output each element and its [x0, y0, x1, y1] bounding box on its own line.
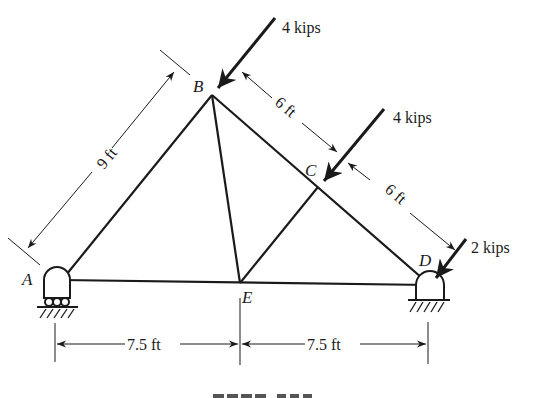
member-ce: [240, 187, 318, 283]
member-ad: [62, 280, 430, 285]
node-label-d: D: [418, 251, 432, 270]
dimension-label-6ft-cd: 6 ft: [382, 180, 410, 207]
dimension-label-6ft-bc: 6 ft: [272, 93, 300, 120]
node-label-e: E: [241, 288, 253, 307]
truss-diagram: 4 kips 4 kips 2 kips A B C D E 9 ft 6 ft…: [0, 0, 536, 398]
load-label-b: 4 kips: [282, 19, 321, 37]
member-be: [212, 95, 240, 283]
figure-caption-partial: [213, 394, 312, 398]
dimension-horizontal: [55, 298, 428, 365]
dimension-label-ae: 7.5 ft: [127, 336, 161, 353]
node-label-c: C: [305, 161, 317, 180]
loads: [218, 18, 466, 278]
load-label-c: 4 kips: [393, 109, 432, 127]
truss-members: [62, 95, 430, 285]
member-ab: [62, 95, 212, 280]
dimension-6ft-cd: [348, 163, 455, 250]
dimension-label-9ft: 9 ft: [93, 144, 120, 172]
pin-support-d: [408, 271, 450, 312]
load-label-d: 2 kips: [471, 239, 510, 257]
node-label-a: A: [21, 270, 33, 289]
node-label-b: B: [193, 77, 204, 96]
load-arrow-c: [324, 109, 384, 181]
load-arrow-d: [436, 239, 466, 278]
roller-support-a: [37, 267, 78, 318]
load-arrow-b: [218, 18, 275, 88]
dimension-label-ed: 7.5 ft: [307, 336, 341, 353]
